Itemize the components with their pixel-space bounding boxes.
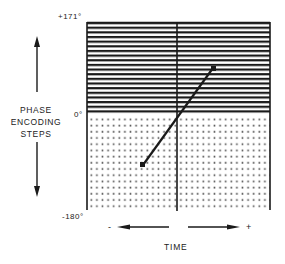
y-axis-title: PHASE ENCODING STEPS <box>6 104 66 140</box>
right-arrow-icon <box>188 225 240 230</box>
up-arrow-icon <box>34 36 40 92</box>
negative-phase-region <box>87 116 270 210</box>
left-arrow-icon <box>117 225 169 230</box>
phase-encoding-diagram: +171° 0° -180° PHASE ENCODING STEPS - + … <box>0 0 285 264</box>
time-minus-sign: - <box>108 222 112 232</box>
time-plus-sign: + <box>246 222 252 232</box>
tick-label-top: +171° <box>58 12 82 21</box>
positive-phase-region <box>87 22 270 115</box>
down-arrow-icon <box>34 142 40 197</box>
y-axis-title-line: ENCODING <box>6 116 66 128</box>
trajectory-end-marker <box>211 66 216 71</box>
trajectory-start-marker <box>140 162 145 167</box>
y-axis-title-line: STEPS <box>6 128 66 140</box>
y-axis-title-line: PHASE <box>6 104 66 116</box>
x-axis-title: TIME <box>164 242 188 252</box>
tick-label-zero: 0° <box>74 110 83 119</box>
tick-label-bottom: -180° <box>62 212 84 221</box>
